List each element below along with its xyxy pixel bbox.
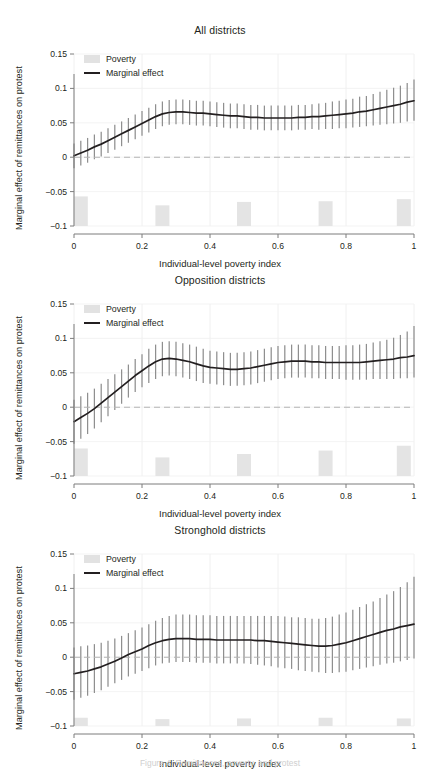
poverty-bar [155, 205, 169, 226]
x-tick-label: 0 [72, 741, 77, 751]
plot-area: −0.1−0.0500.050.10.1500.20.40.60.81Pover… [0, 20, 440, 270]
y-tick-label: 0.15 [50, 299, 67, 309]
poverty-bar [155, 457, 169, 476]
poverty-bar [237, 454, 251, 476]
x-tick-label: 0.4 [204, 741, 216, 751]
poverty-bar [237, 718, 251, 726]
y-tick-label: −0.1 [50, 221, 67, 231]
poverty-bar [319, 451, 333, 476]
x-axis-label: Individual-level poverty index [0, 508, 440, 519]
x-tick-label: 0 [72, 241, 77, 251]
y-tick-label: 0.1 [55, 333, 67, 343]
x-tick-label: 0.6 [272, 241, 284, 251]
y-tick-label: 0.05 [50, 118, 67, 128]
y-tick-label: 0.15 [50, 549, 67, 559]
chart-panel-stronghold-districts: Stronghold districts Marginal effect of … [0, 520, 440, 770]
legend-label-marginal-effect: Marginal effect [106, 68, 164, 78]
y-tick-label: 0 [62, 152, 67, 162]
y-tick-label: 0 [62, 402, 67, 412]
poverty-bar [155, 719, 169, 726]
legend-label-marginal-effect: Marginal effect [106, 318, 164, 328]
poverty-bar [74, 196, 88, 226]
x-tick-label: 0.4 [204, 241, 216, 251]
poverty-bar [74, 718, 88, 726]
y-tick-label: −0.1 [50, 721, 67, 731]
legend-label-poverty: Poverty [106, 304, 136, 314]
poverty-bar [319, 718, 333, 726]
x-tick-label: 0.8 [340, 741, 352, 751]
chart-panel-all-districts: All districts Marginal effect of remitta… [0, 20, 440, 270]
y-tick-label: −0.05 [45, 437, 67, 447]
legend-swatch-poverty [84, 555, 100, 563]
legend-label-poverty: Poverty [106, 54, 136, 64]
poverty-bar [397, 718, 411, 726]
legend-swatch-poverty [84, 55, 100, 63]
figure-caption: Figure 4. Remittances, poverty, and prot… [0, 758, 440, 768]
x-tick-label: 0.2 [136, 241, 148, 251]
y-tick-label: −0.05 [45, 687, 67, 697]
x-tick-label: 0.8 [340, 491, 352, 501]
poverty-bar [397, 199, 411, 226]
chart-panel-opposition-districts: Opposition districts Marginal effect of … [0, 270, 440, 520]
y-tick-label: 0.1 [55, 83, 67, 93]
x-tick-label: 1 [412, 741, 417, 751]
y-tick-label: −0.05 [45, 187, 67, 197]
y-tick-label: −0.1 [50, 471, 67, 481]
poverty-bar [397, 446, 411, 476]
x-tick-label: 0 [72, 491, 77, 501]
x-tick-label: 0.8 [340, 241, 352, 251]
legend-swatch-poverty [84, 305, 100, 313]
y-tick-label: 0.15 [50, 49, 67, 59]
x-tick-label: 0.4 [204, 491, 216, 501]
x-tick-label: 1 [412, 241, 417, 251]
x-tick-label: 0.6 [272, 741, 284, 751]
poverty-bar [319, 201, 333, 226]
poverty-bar [237, 202, 251, 226]
x-tick-label: 1 [412, 491, 417, 501]
x-tick-label: 0.2 [136, 741, 148, 751]
x-tick-label: 0.6 [272, 491, 284, 501]
plot-area: −0.1−0.0500.050.10.1500.20.40.60.81Pover… [0, 520, 440, 770]
figure-container: All districts Marginal effect of remitta… [0, 0, 440, 774]
poverty-bar [74, 448, 88, 476]
x-tick-label: 0.2 [136, 491, 148, 501]
y-tick-label: 0 [62, 652, 67, 662]
legend-label-marginal-effect: Marginal effect [106, 568, 164, 578]
plot-area: −0.1−0.0500.050.10.1500.20.40.60.81Pover… [0, 270, 440, 520]
y-tick-label: 0.1 [55, 583, 67, 593]
y-tick-label: 0.05 [50, 618, 67, 628]
y-tick-label: 0.05 [50, 368, 67, 378]
legend-label-poverty: Poverty [106, 554, 136, 564]
x-axis-label: Individual-level poverty index [0, 258, 440, 269]
